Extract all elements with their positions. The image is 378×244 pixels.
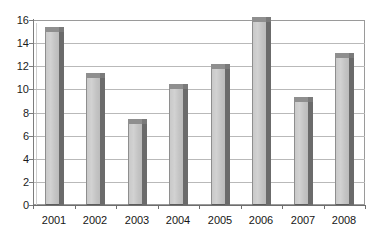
bar-side-face <box>349 58 354 205</box>
category-label-2004: 2004 <box>166 214 190 226</box>
bar-side-face <box>266 22 271 205</box>
category-label-2005: 2005 <box>208 214 232 226</box>
category-tick-mark-3 <box>158 205 159 209</box>
bar-2006 <box>252 17 266 205</box>
bar-2007 <box>294 97 308 205</box>
bar-side-face <box>59 32 64 205</box>
category-tick-mark-5 <box>241 205 242 209</box>
category-label-2008: 2008 <box>332 214 356 226</box>
bar-2002 <box>86 73 100 205</box>
category-tick-mark-6 <box>282 205 283 209</box>
bar-2003 <box>128 119 142 205</box>
bar-front-face <box>169 89 183 205</box>
bar-2001 <box>45 27 59 205</box>
bar-2008 <box>335 53 349 205</box>
bar-2004 <box>169 84 183 205</box>
bar-chart: 0246810121416 20012002200320042005200620… <box>0 0 378 244</box>
bar-front-face <box>45 32 59 205</box>
category-label-2007: 2007 <box>291 214 315 226</box>
bar-side-face <box>100 78 105 205</box>
bar-front-face <box>335 58 349 205</box>
bar-side-face <box>225 69 230 205</box>
category-label-2003: 2003 <box>125 214 149 226</box>
category-tick-mark-1 <box>75 205 76 209</box>
category-tick-mark-2 <box>116 205 117 209</box>
category-tick-mark-0 <box>33 205 34 209</box>
category-label-2006: 2006 <box>249 214 273 226</box>
bars-group <box>0 0 378 244</box>
category-tick-mark-4 <box>199 205 200 209</box>
bar-front-face <box>211 69 225 205</box>
bar-side-face <box>183 89 188 205</box>
category-label-2001: 2001 <box>42 214 66 226</box>
bar-front-face <box>294 102 308 205</box>
category-tick-mark-8 <box>365 205 366 209</box>
bar-front-face <box>252 22 266 205</box>
bar-side-face <box>142 124 147 205</box>
category-tick-mark-7 <box>324 205 325 209</box>
bar-front-face <box>86 78 100 205</box>
category-label-2002: 2002 <box>83 214 107 226</box>
bar-front-face <box>128 124 142 205</box>
bar-2005 <box>211 64 225 205</box>
bar-side-face <box>308 102 313 205</box>
